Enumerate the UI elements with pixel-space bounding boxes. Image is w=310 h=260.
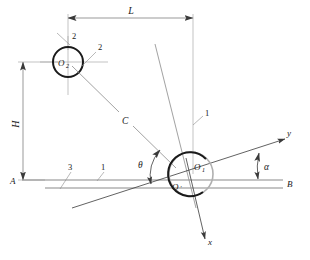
angle-theta-label: θ: [138, 160, 143, 170]
angle-alpha-group: α: [257, 153, 270, 179]
angle-alpha-arc: [257, 153, 259, 179]
callout-2-right-leader: [82, 52, 96, 66]
axis-y-line: [72, 139, 285, 208]
small-circle-center-subscript: 2: [66, 63, 69, 69]
line-C-group: C: [72, 66, 176, 168]
dimension-H-label: H: [10, 120, 21, 129]
line-C-label: C: [122, 116, 129, 126]
callout-1-left-label: 1: [101, 162, 105, 172]
callout-group: 2 2 3 1 1: [57, 31, 209, 189]
callout-2-upper-label: 2: [72, 31, 76, 41]
callout-1-right-label: 1: [205, 108, 209, 118]
callout-2-right-label: 2: [98, 42, 102, 52]
dimension-L-label: L: [127, 5, 134, 16]
callout-3-label: 3: [68, 162, 72, 172]
point-B-label: B: [287, 179, 293, 189]
dimension-H: H: [10, 62, 58, 180]
large-circle-group: O 1 O ′: [168, 152, 213, 196]
diagram-canvas: L H A B O 2 2: [0, 0, 310, 260]
axis-x-label: x: [207, 237, 212, 247]
large-circle-center-label: O: [194, 162, 201, 172]
angle-theta-arc: [150, 150, 160, 184]
angle-theta-group: θ: [138, 150, 160, 184]
point-o-prime-label: O: [172, 182, 179, 192]
callout-1-right-leader: [193, 116, 203, 125]
small-circle-center-label: O: [58, 58, 65, 68]
point-A-label: A: [9, 176, 16, 186]
technical-diagram: L H A B O 2 2: [0, 0, 310, 260]
dimension-L: L: [68, 5, 193, 174]
angle-alpha-label: α: [264, 162, 270, 172]
line-C-segment-upper: [72, 66, 119, 112]
large-circle-center-subscript: 1: [202, 167, 205, 173]
axis-y-label: y: [286, 128, 291, 138]
